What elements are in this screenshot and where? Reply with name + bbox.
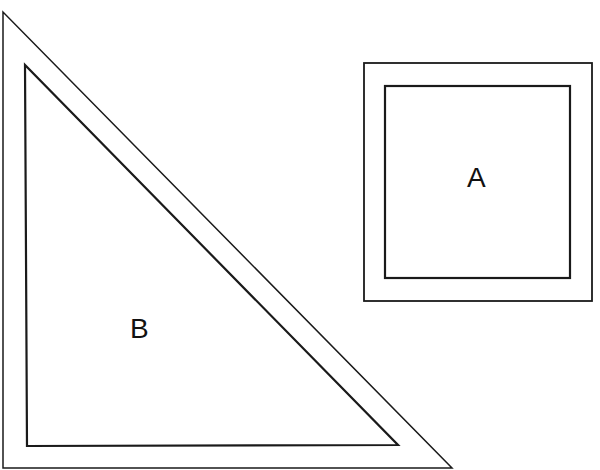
- diagram-canvas: A B: [0, 0, 600, 470]
- label-b: B: [130, 313, 149, 344]
- label-a: A: [467, 162, 486, 193]
- triangle-inner: [25, 65, 398, 446]
